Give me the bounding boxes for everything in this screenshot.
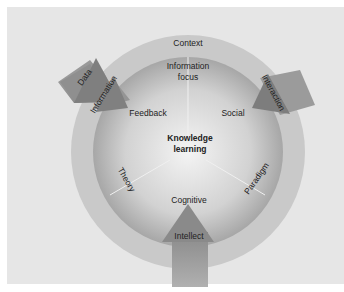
- learning-label: learning: [173, 144, 206, 154]
- social-label: Social: [221, 108, 244, 118]
- knowledge-learning-diagram: Context Information focus Feedback Socia…: [0, 0, 344, 292]
- information-focus-label-line1: Information: [167, 61, 210, 71]
- information-focus-label-line2: focus: [178, 72, 198, 82]
- context-label: Context: [173, 38, 203, 48]
- knowledge-label: Knowledge: [167, 133, 213, 143]
- feedback-label: Feedback: [129, 108, 167, 118]
- intellect-arrow-label: Intellect: [174, 231, 204, 241]
- cognitive-label: Cognitive: [171, 195, 207, 205]
